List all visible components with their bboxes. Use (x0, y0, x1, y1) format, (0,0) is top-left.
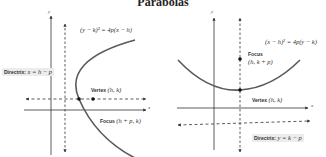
left-focus-label: Focus (h + p, k) (100, 117, 141, 125)
right-parabola-curve (178, 60, 300, 90)
left-directrix-equation: x = h − p (27, 68, 52, 75)
left-equation: (y − k)² = 4p(x − h) (80, 26, 132, 33)
right-vertex-point (238, 88, 242, 92)
right-directrix-equation: y = k − p (277, 134, 301, 141)
left-focus-coords: (h + p, k) (116, 117, 141, 124)
right-y-axis-label: y (211, 9, 213, 14)
right-vertex-coords: (h, k) (269, 96, 283, 103)
right-directrix-line (178, 121, 310, 125)
right-vertex-label: Vertex (h, k) (252, 96, 282, 104)
left-directrix-label: Directrix: x = h − p (2, 68, 54, 76)
right-x-axis-label: x (311, 103, 313, 108)
left-vertex-point (77, 97, 81, 101)
left-vertex-coords: (h, k) (108, 86, 122, 93)
left-focus-title: Focus (100, 118, 115, 124)
right-vertex-title: Vertex (252, 97, 267, 103)
left-vertex-label: Vertex (h, k) (91, 86, 121, 94)
right-focus-coords: (h, k + p) (248, 58, 273, 65)
left-focus-point (91, 97, 95, 101)
right-focus-title: Focus (248, 51, 273, 58)
right-directrix-title: Directrix: (254, 135, 276, 141)
right-equation: (x − h)² = 4p(y − k) (265, 38, 317, 45)
left-x-axis-label: x (148, 105, 150, 110)
right-directrix-label: Directrix: y = k − p (252, 134, 304, 142)
left-y-axis-label: y (48, 9, 50, 14)
right-focus-label: Focus(h, k + p) (248, 51, 273, 66)
left-vertex-title: Vertex (91, 87, 106, 93)
left-panel (24, 16, 146, 157)
left-parabola-curve (76, 40, 135, 157)
left-directrix-title: Directrix: (4, 69, 26, 75)
right-focus-point (238, 57, 242, 61)
